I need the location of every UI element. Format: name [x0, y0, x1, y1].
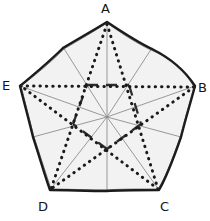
vertex-label-c: C: [160, 200, 169, 213]
vertex-label-b: B: [198, 81, 207, 94]
pentagon-figure: A B C D E: [0, 0, 210, 221]
vertex-label-d: D: [38, 200, 48, 213]
vertex-label-a: A: [101, 2, 110, 15]
pentagon-diagram-svg: [0, 0, 210, 221]
vertex-label-e: E: [2, 79, 10, 92]
